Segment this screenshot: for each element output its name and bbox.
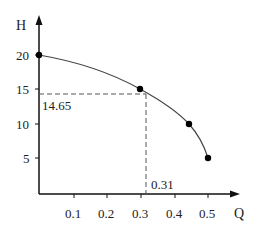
point-0-20 [36,52,42,58]
x-tick-0-5: 0.5 [199,207,215,220]
y-tick-10: 10 [16,118,29,131]
point-0-3-15 [137,86,143,92]
x-tick-0-2: 0.2 [98,207,114,220]
x-tick-0-3: 0.3 [132,207,148,220]
annotation-14-65: 14.65 [42,99,71,112]
y-tick-20: 20 [16,49,29,62]
annotation-0-31: 0.31 [151,178,174,191]
h-q-chart [0,0,258,229]
x-tick-0-4: 0.4 [166,207,182,220]
y-tick-5: 5 [23,152,30,165]
x-axis-label: Q [234,207,244,221]
point-0-44-10 [186,121,192,127]
y-axis-arrow-icon [36,15,43,25]
x-axis-arrow-icon [230,191,240,198]
y-axis-label: H [16,19,26,33]
y-tick-15: 15 [16,83,29,96]
x-tick-0-1: 0.1 [65,207,81,220]
point-0-5-5 [205,155,211,161]
